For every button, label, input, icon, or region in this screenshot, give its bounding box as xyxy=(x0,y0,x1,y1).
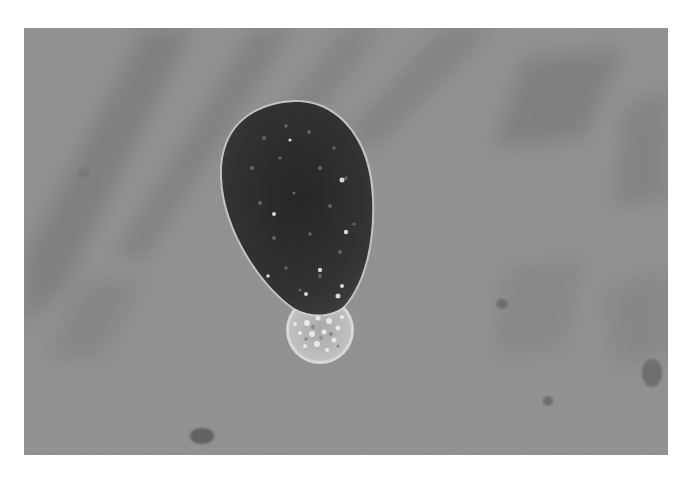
micrograph-frame xyxy=(24,28,668,455)
micrograph xyxy=(24,28,668,455)
